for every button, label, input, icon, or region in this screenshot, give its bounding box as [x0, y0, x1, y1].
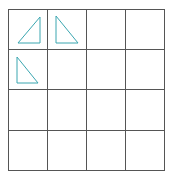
grid-diagram [0, 0, 172, 177]
triangle-shape [17, 57, 38, 83]
grid [9, 10, 165, 171]
triangle-shape [56, 16, 78, 43]
triangle-shape [18, 17, 40, 43]
